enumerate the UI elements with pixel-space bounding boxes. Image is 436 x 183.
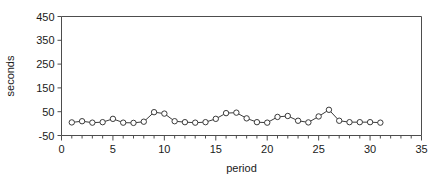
x-tick-label: 10 — [158, 143, 170, 155]
data-point-marker — [295, 118, 300, 123]
x-axis-title: period — [226, 162, 257, 174]
y-axis-title: seconds — [4, 55, 16, 96]
y-tick-label: 50 — [42, 106, 54, 118]
data-point-marker — [131, 120, 136, 125]
data-point-marker — [90, 120, 95, 125]
data-point-marker — [326, 107, 331, 112]
x-axis: 05101520253035period — [58, 136, 427, 174]
data-point-marker — [337, 118, 342, 123]
line-chart: -5050150250350450seconds05101520253035pe… — [0, 0, 436, 183]
data-point-marker — [244, 116, 249, 121]
data-point-marker — [254, 119, 259, 124]
data-point-marker — [223, 110, 228, 115]
x-tick-label: 30 — [364, 143, 376, 155]
data-point-marker — [110, 116, 115, 121]
data-point-marker — [151, 109, 156, 114]
data-point-marker — [357, 119, 362, 124]
x-tick-label: 0 — [58, 143, 64, 155]
data-point-marker — [162, 111, 167, 116]
data-point-marker — [234, 110, 239, 115]
x-tick-label: 5 — [110, 143, 116, 155]
data-point-marker — [306, 120, 311, 125]
data-point-marker — [265, 120, 270, 125]
y-tick-label: 450 — [36, 11, 54, 23]
y-tick-label: 350 — [36, 34, 54, 46]
data-point-marker — [79, 119, 84, 124]
data-point-marker — [275, 114, 280, 119]
data-point-marker — [193, 120, 198, 125]
data-point-marker — [347, 119, 352, 124]
data-series — [69, 107, 383, 125]
data-point-marker — [367, 119, 372, 124]
data-point-marker — [378, 120, 383, 125]
data-point-marker — [141, 119, 146, 124]
data-point-marker — [182, 119, 187, 124]
data-point-marker — [69, 120, 74, 125]
data-point-marker — [172, 119, 177, 124]
y-tick-label: -50 — [39, 130, 55, 142]
data-point-marker — [121, 120, 126, 125]
data-point-marker — [316, 114, 321, 119]
y-tick-label: 250 — [36, 58, 54, 70]
x-tick-label: 15 — [210, 143, 222, 155]
x-tick-label: 25 — [313, 143, 325, 155]
data-point-marker — [100, 119, 105, 124]
chart-container: -5050150250350450seconds05101520253035pe… — [0, 0, 436, 183]
x-tick-label: 35 — [415, 143, 427, 155]
y-tick-label: 150 — [36, 82, 54, 94]
y-axis: -5050150250350450seconds — [4, 11, 62, 142]
data-point-marker — [203, 119, 208, 124]
data-point-marker — [285, 113, 290, 118]
x-tick-label: 20 — [261, 143, 273, 155]
data-point-marker — [213, 116, 218, 121]
